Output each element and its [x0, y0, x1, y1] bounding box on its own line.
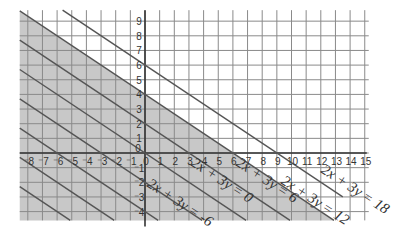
x-tick-label: 11 [302, 156, 313, 167]
y-tick-label: ⁻3 [134, 192, 145, 203]
y-tick-label: 6 [136, 60, 142, 71]
x-tick-label: 8 [260, 156, 266, 167]
y-tick-label: ⁻2 [134, 177, 145, 188]
y-tick-label: 0 [135, 143, 141, 154]
y-tick-label: 4 [136, 89, 142, 100]
y-tick-label: ⁻4 [134, 207, 145, 218]
x-tick-label: 15 [360, 156, 372, 167]
x-tick-label: ⁻5 [67, 156, 78, 167]
x-tick-label: ⁻3 [97, 156, 108, 167]
x-tick-label: ⁻7 [38, 156, 49, 167]
y-tick-label: 9 [136, 16, 142, 27]
graph-plot: ⁻8⁻7⁻6⁻5⁻4⁻3⁻2⁻10123456789101112131415⁻4… [0, 0, 400, 234]
x-tick-label: 2 [173, 156, 179, 167]
y-tick-label: ⁻1 [134, 163, 145, 174]
y-tick-label: 3 [136, 104, 142, 115]
y-tick-label: 2 [136, 119, 142, 130]
x-tick-label: ⁻2 [111, 156, 122, 167]
x-tick-label: 9 [275, 156, 281, 167]
x-tick-label: ⁻8 [24, 156, 35, 167]
y-tick-label: 5 [136, 75, 142, 86]
x-tick-label: 14 [346, 156, 358, 167]
x-tick-label: ⁻4 [82, 156, 93, 167]
y-tick-label: 8 [136, 31, 142, 42]
x-tick-label: 5 [216, 156, 222, 167]
y-tick-label: 1 [136, 133, 142, 144]
x-tick-label: ⁻6 [53, 156, 64, 167]
y-tick-label: 7 [136, 45, 142, 56]
x-tick-label: 10 [287, 156, 299, 167]
x-tick-label: 1 [158, 156, 164, 167]
